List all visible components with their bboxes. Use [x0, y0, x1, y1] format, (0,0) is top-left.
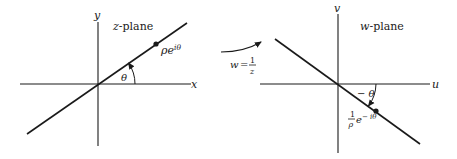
z-point-marker [153, 41, 158, 46]
mapping-numerator: 1 [250, 56, 255, 65]
conformal-mapping-diagram: y z-plane x θ ρeiθ w = 1 z v w-plane u −… [0, 0, 457, 159]
z-plane-title: z-plane [112, 20, 153, 33]
w-point-exp: − iθ [362, 113, 377, 121]
w-point-frac-num: 1 [350, 110, 355, 119]
w-plane-suffix: -plane [369, 20, 403, 33]
w-point-frac-den: ρ [348, 120, 354, 129]
w-plane-panel: v w-plane u − θ 1 ρ e− iθ [260, 2, 439, 153]
w-angle-label: − θ [357, 88, 375, 99]
mapping-eq: = [240, 59, 248, 70]
mapping-arrow-group: w = 1 z [221, 42, 261, 76]
z-angle-label: θ [121, 72, 127, 83]
w-plane-title: w-plane [360, 20, 404, 33]
z-plane-suffix: -plane [119, 20, 153, 33]
z-point-base: ρe [160, 44, 174, 57]
z-ray-line [27, 23, 187, 134]
z-point-label: ρeiθ [160, 43, 181, 57]
z-angle-arc [129, 63, 136, 84]
z-y-axis-label: y [93, 9, 101, 22]
mapping-lhs: w [230, 59, 239, 70]
mapping-denominator: z [249, 67, 255, 76]
z-x-axis-label: x [191, 78, 198, 91]
w-ray-line [275, 39, 420, 144]
w-v-axis-label: v [334, 2, 341, 15]
z-point-exp: iθ [174, 43, 181, 52]
w-u-axis-label: u [432, 78, 439, 91]
z-plane-panel: y z-plane x θ ρeiθ [20, 9, 198, 146]
mapping-arrow [221, 42, 261, 52]
w-point-label: e− iθ [356, 113, 377, 125]
